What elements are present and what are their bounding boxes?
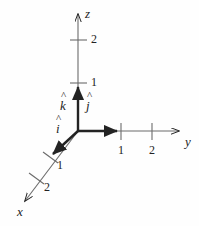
x-tick-1-label: 1 <box>57 159 63 171</box>
k-hat-label: ^ k <box>60 99 66 112</box>
coordinate-axes-figure: z y x 2 1 1 2 1 2 ^ k ^ j ^ i <box>0 0 199 226</box>
z-tick-2-label: 2 <box>91 33 97 45</box>
axes-drawing <box>0 0 199 226</box>
j-hat-label: ^ j <box>86 99 90 112</box>
z-tick-1-label: 1 <box>91 76 97 88</box>
i-hat-accent: ^ <box>56 113 61 124</box>
z-axis-label: z <box>85 7 90 20</box>
x-axis-label: x <box>17 205 23 218</box>
x-axis-line <box>25 131 78 201</box>
j-hat-accent: ^ <box>87 90 92 101</box>
y-tick-1-label: 1 <box>118 144 124 156</box>
x-tick-2-label: 2 <box>44 181 50 193</box>
k-hat-accent: ^ <box>61 90 66 101</box>
y-tick-2-label: 2 <box>149 144 155 156</box>
y-axis-label: y <box>185 135 191 148</box>
x-tick-1 <box>43 152 58 163</box>
i-hat-label: ^ i <box>56 122 60 135</box>
